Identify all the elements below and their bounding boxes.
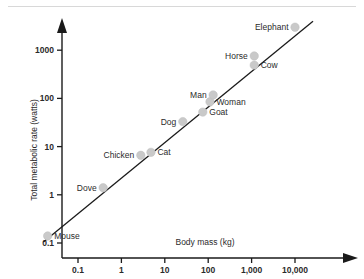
data-point-marker — [43, 232, 51, 240]
data-points-group — [43, 23, 299, 240]
data-point-marker — [291, 23, 299, 31]
data-point-marker — [250, 52, 258, 60]
data-point-label: Woman — [216, 97, 245, 107]
y-tick-label: 10 — [45, 142, 55, 152]
data-point-label: Man — [190, 90, 207, 100]
data-point-label: Dog — [161, 117, 177, 127]
y-tick-label: 1 — [49, 190, 54, 200]
x-tick-label: 100 — [201, 265, 215, 275]
data-point-label: Elephant — [255, 22, 289, 32]
x-tick-label: 1 — [119, 265, 124, 275]
data-point-label: Dove — [77, 183, 97, 193]
fit-line — [43, 21, 313, 242]
data-point-marker — [199, 108, 207, 116]
x-tick-label: 0.1 — [72, 265, 84, 275]
x-tick-label: 1,000 — [241, 265, 263, 275]
data-point-marker — [179, 117, 187, 125]
x-axis-title: Body mass (kg) — [175, 237, 234, 247]
data-point-label: Cow — [261, 60, 279, 70]
y-axis-title: Total metabolic rate (watts) — [29, 99, 39, 201]
axes-group — [57, 18, 358, 263]
data-point-marker — [99, 184, 107, 192]
scatter-plot-canvas: 0.111010010000.11101001,00010,000 MouseD… — [0, 0, 364, 279]
y-tick-label: 100 — [40, 93, 54, 103]
data-point-label: Mouse — [54, 231, 80, 241]
chart-figure: 0.111010010000.11101001,00010,000 MouseD… — [0, 0, 364, 279]
data-point-marker — [137, 151, 145, 159]
data-point-marker — [147, 148, 155, 156]
data-point-label: Chicken — [104, 150, 135, 160]
data-point-marker — [250, 61, 258, 69]
y-tick-label: 1000 — [35, 45, 54, 55]
x-tick-label: 10,000 — [282, 265, 308, 275]
data-point-label: Horse — [225, 51, 248, 61]
x-tick-label: 10 — [160, 265, 170, 275]
data-point-label: Cat — [157, 147, 171, 157]
data-point-label: Goat — [209, 107, 228, 117]
